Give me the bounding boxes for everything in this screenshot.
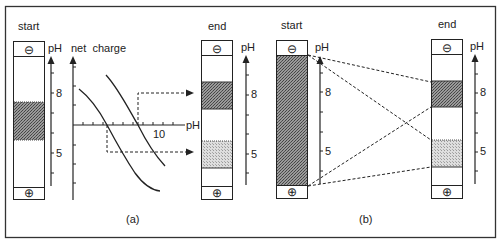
panel-b-caption: (b) [359, 213, 372, 225]
cathode-minus-icon: ⊖ [24, 43, 34, 57]
svg-text:pH: pH [241, 41, 255, 53]
svg-text:5: 5 [480, 145, 486, 157]
svg-text:10: 10 [153, 128, 165, 140]
anode-plus-icon: ⊕ [212, 186, 222, 200]
svg-text:pH: pH [315, 41, 329, 53]
panel-b-end-label: end [438, 18, 456, 30]
panel-a-start-label: start [18, 20, 39, 32]
net-charge-axis-label: net charge [71, 42, 126, 54]
panel-a-end-ph-axis: pH 8 5 [241, 41, 257, 185]
isoelectric-focusing-diagram: start end ⊖ ⊕ pH 8 [0, 0, 501, 245]
focused-band-high-pI [202, 82, 232, 109]
svg-text:pH: pH [186, 119, 200, 131]
anode-plus-icon: ⊕ [442, 185, 452, 199]
svg-text:5: 5 [325, 145, 331, 157]
panel-b-start-label: start [281, 19, 302, 31]
anode-plus-icon: ⊕ [287, 185, 297, 199]
panel-b-end-tube: ⊖ ⊕ [432, 40, 463, 200]
svg-text:8: 8 [480, 86, 486, 98]
panel-b-start-tube: ⊖ ⊕ [277, 41, 308, 200]
svg-text:5: 5 [56, 147, 62, 159]
anode-plus-icon: ⊕ [24, 186, 34, 200]
sample-fill-start [277, 55, 307, 186]
panel-a-caption: (a) [126, 213, 139, 225]
panel-b-end-ph-axis: pH 8 5 [470, 40, 486, 184]
svg-text:8: 8 [251, 88, 257, 100]
net-charge-graph: net charge [70, 42, 201, 200]
band-mapping-lines [308, 55, 431, 186]
panel-a: start end ⊖ ⊕ pH 8 [14, 20, 258, 225]
svg-text:pH: pH [48, 42, 62, 54]
panel-b-start-ph-axis: pH 8 5 [315, 41, 331, 184]
panel-a-start-tube: ⊖ ⊕ [14, 42, 45, 201]
svg-text:5: 5 [251, 148, 257, 160]
cathode-minus-icon: ⊖ [287, 42, 297, 56]
focused-band-low-pI [432, 140, 462, 167]
panel-a-end-tube: ⊖ ⊕ [202, 41, 233, 201]
panel-a-end-label: end [208, 20, 226, 32]
svg-text:8: 8 [56, 87, 62, 99]
pI-projection-high [138, 93, 189, 125]
focused-band-high-pI [432, 81, 462, 107]
svg-text:pH: pH [470, 40, 484, 52]
cathode-minus-icon: ⊖ [442, 41, 452, 55]
focused-band-low-pI [202, 141, 232, 168]
svg-text:8: 8 [325, 86, 331, 98]
panel-a-start-ph-axis: pH 8 5 [48, 42, 63, 186]
protein-1-charge-curve [79, 89, 160, 191]
panel-b: start end ⊖ ⊕ pH 8 5 [277, 18, 487, 225]
cathode-minus-icon: ⊖ [212, 42, 222, 56]
sample-band-start [14, 102, 44, 140]
